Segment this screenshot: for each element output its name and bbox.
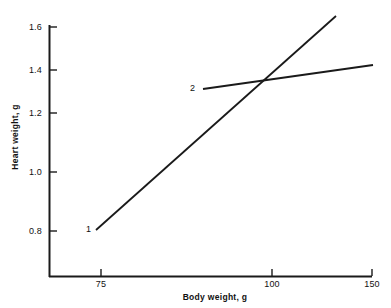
series-line-1 [96, 16, 336, 230]
y-axis-title: Heart weight, g [10, 91, 20, 183]
series-line-2 [203, 65, 373, 89]
x-tick-label: 75 [91, 279, 111, 289]
y-axis-ticks [50, 27, 57, 231]
series-label-2: 2 [190, 83, 195, 93]
x-tick-label: 150 [359, 279, 385, 289]
y-tick-label: 1.6 [12, 22, 42, 32]
series-label-1: 1 [86, 224, 91, 234]
y-tick-label: 1.4 [12, 65, 42, 75]
x-axis-title: Body weight, g [150, 292, 280, 302]
chart-container: 1.6 1.4 1.2 1.0 0.8 75 100 150 Heart wei… [0, 0, 391, 308]
x-axis-ticks [101, 269, 372, 276]
chart-plot-area [0, 0, 391, 308]
y-tick-label: 0.8 [12, 226, 42, 236]
x-tick-label: 100 [259, 279, 285, 289]
